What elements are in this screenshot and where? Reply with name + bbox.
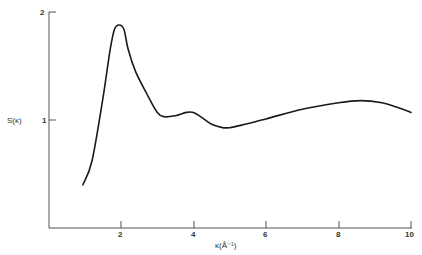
y-axis-label: S(κ) (7, 116, 22, 125)
y-tick-label-2: 2 (40, 8, 45, 17)
structure-factor-curve (83, 25, 411, 185)
x-tick-label-2: 2 (118, 230, 123, 239)
x-axis-label: κ(Å⁻¹) (215, 241, 237, 250)
x-tick-label-10: 10 (405, 230, 414, 239)
x-tick-label-8: 8 (336, 230, 341, 239)
chart-canvas: 2 1 2 4 6 8 10 S(κ) κ(Å⁻¹) (0, 0, 422, 255)
x-tick-label-4: 4 (191, 230, 196, 239)
y-tick-label-1: 1 (42, 116, 47, 125)
x-tick-label-6: 6 (263, 230, 268, 239)
